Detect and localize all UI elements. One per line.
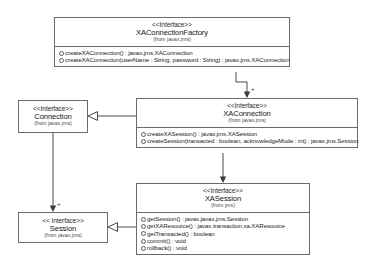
operation-row: getXAResource() : javax.transaction.xa.X… — [137, 222, 309, 229]
class-operations: getSession() : javax.javax.jms.Session g… — [137, 212, 309, 254]
operation-signature: commit() : void — [147, 237, 186, 244]
operation-signature: createSession(transacted : boolean, ackn… — [147, 137, 358, 144]
class-package: (from javax.jms) — [139, 118, 355, 124]
class-package: (from javax.jms) — [57, 37, 287, 43]
class-box-session[interactable]: << Interface>> Session (from javax.jms) — [18, 212, 108, 243]
public-visibility-icon — [140, 238, 145, 243]
operation-signature: getXAResource() : javax.transaction.xa.X… — [147, 222, 285, 229]
operation-signature: getTransacted() : boolean — [147, 230, 215, 237]
public-visibility-icon — [58, 50, 63, 55]
public-visibility-icon — [140, 231, 145, 236]
public-visibility-icon — [140, 223, 145, 228]
class-header: << Interface>> Session (from javax.jms) — [19, 213, 107, 242]
edge-xasession-extends-session — [108, 223, 136, 232]
class-package: (from javax.jms) — [21, 121, 85, 127]
operation-signature: createXASession() : javax.jms.XASession — [147, 130, 257, 137]
class-box-xaconnectionfactory[interactable]: <<Interface>> XAConnectionFactory (from … — [54, 17, 290, 67]
operation-signature: rollback() : void — [147, 244, 187, 251]
edge-factory-creates-xaconnection — [236, 72, 250, 98]
class-package: (from jms) — [139, 203, 307, 209]
operation-row: createXAConnection() : javax.jms.XAConne… — [55, 49, 289, 56]
class-header: <<Interface>> XASession (from jms) — [137, 184, 309, 212]
class-header: <<Interface>> XAConnection (from javax.j… — [137, 99, 357, 127]
operation-row: getTransacted() : boolean — [137, 230, 309, 237]
operation-signature: createXAConnection(userName : String, pa… — [65, 56, 289, 63]
operation-signature: getSession() : javax.javax.jms.Session — [147, 215, 248, 222]
class-operations: createXAConnection() : javax.jms.XAConne… — [55, 46, 289, 66]
multiplicity-factory-xaconnection: + — [251, 86, 255, 92]
public-visibility-icon — [140, 245, 145, 250]
public-visibility-icon — [140, 131, 145, 136]
class-header: <<Interface>> XAConnectionFactory (from … — [55, 18, 289, 46]
operation-row: getSession() : javax.javax.jms.Session — [137, 215, 309, 222]
uml-diagram-canvas: + + <<Interface>> XAConnectionFactory (f… — [0, 0, 373, 277]
operation-row: commit() : void — [137, 237, 309, 244]
class-box-connection[interactable]: <<Interface>> Connection (from javax.jms… — [18, 100, 88, 133]
public-visibility-icon — [140, 138, 145, 143]
operation-row: createSession(transacted : boolean, ackn… — [137, 137, 357, 144]
class-header: <<Interface>> Connection (from javax.jms… — [19, 101, 87, 130]
operation-signature: createXAConnection() : javax.jms.XAConne… — [65, 49, 193, 56]
edge-connection-creates-session — [50, 133, 56, 212]
edge-xaconnection-extends-connection — [88, 112, 136, 121]
class-box-xaconnection[interactable]: <<Interface>> XAConnection (from javax.j… — [136, 98, 358, 148]
multiplicity-connection-session: + — [57, 201, 61, 207]
operation-row: rollback() : void — [137, 244, 309, 251]
operation-row: createXAConnection(userName : String, pa… — [55, 56, 289, 63]
operation-row: createXASession() : javax.jms.XASession — [137, 130, 357, 137]
class-package: (from javax.jms) — [21, 233, 105, 239]
class-operations: createXASession() : javax.jms.XASession … — [137, 127, 357, 147]
edge-xaconnection-to-xasession — [220, 153, 226, 183]
public-visibility-icon — [140, 216, 145, 221]
class-box-xasession[interactable]: <<Interface>> XASession (from jms) getSe… — [136, 183, 310, 255]
public-visibility-icon — [58, 57, 63, 62]
